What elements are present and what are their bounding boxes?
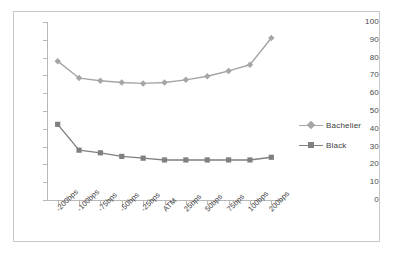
legend-marker-diamond-icon bbox=[307, 121, 315, 129]
legend-marker-square-icon bbox=[308, 142, 314, 148]
data-point-marker bbox=[97, 77, 104, 84]
legend-label: Bachelier bbox=[326, 121, 361, 130]
legend-swatch-diamond-icon bbox=[299, 120, 323, 130]
data-point-marker bbox=[141, 156, 146, 161]
data-point-marker bbox=[98, 150, 103, 155]
legend-swatch-square-icon bbox=[299, 140, 323, 150]
data-point-marker bbox=[183, 77, 190, 84]
data-point-marker bbox=[76, 148, 81, 153]
data-point-marker bbox=[225, 68, 232, 75]
legend-item-black[interactable]: Black bbox=[299, 135, 377, 155]
data-point-marker bbox=[119, 79, 126, 86]
data-point-marker bbox=[140, 80, 147, 87]
data-point-marker bbox=[119, 154, 124, 159]
data-point-marker bbox=[204, 73, 211, 80]
series-black bbox=[55, 122, 274, 163]
series-line bbox=[58, 124, 272, 160]
chart-legend: BachelierBlack bbox=[299, 115, 377, 155]
data-point-marker bbox=[247, 157, 252, 162]
chart-container: 1009080706050403020100 -200bps-100bps-75… bbox=[13, 11, 380, 242]
data-point-marker bbox=[269, 155, 274, 160]
legend-label: Black bbox=[326, 141, 347, 150]
series-bachelier bbox=[54, 35, 274, 87]
data-point-marker bbox=[205, 157, 210, 162]
data-point-marker bbox=[55, 122, 60, 127]
data-point-marker bbox=[162, 157, 167, 162]
legend-item-bachelier[interactable]: Bachelier bbox=[299, 115, 377, 135]
data-point-marker bbox=[226, 157, 231, 162]
data-point-marker bbox=[161, 79, 168, 86]
data-point-marker bbox=[183, 157, 188, 162]
series-line bbox=[58, 38, 272, 83]
